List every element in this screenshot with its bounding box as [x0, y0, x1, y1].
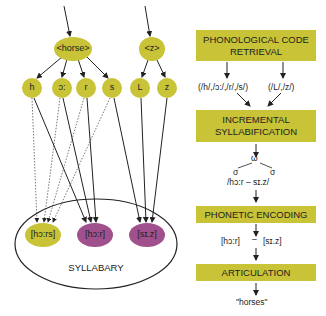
word-node-z: <z> — [139, 37, 165, 61]
input-arrow — [64, 6, 70, 36]
output-word: "horses" — [236, 297, 268, 307]
svg-text:[sɪ.z]: [sɪ.z] — [137, 229, 157, 239]
word-node-horse: <horse> — [54, 37, 92, 61]
segment-node: r — [76, 78, 96, 98]
svg-text:ɔ:: ɔ: — [58, 82, 65, 92]
omega-symbol: ω — [251, 153, 258, 163]
syllabified-form: /hɔ:r – sɪ.z/ — [227, 177, 269, 187]
svg-text:r: r — [85, 82, 88, 92]
stage-phonetic-encoding: PHONETIC ENCODING — [196, 206, 316, 223]
stage-incremental-syllabification: INCREMENTAL SYLLABIFICATION — [196, 110, 316, 142]
svg-text:[hɔ:rs]: [hɔ:rs] — [31, 229, 56, 239]
syllabary-label: SYLLABARY — [68, 262, 124, 273]
syllable-node-hors: [hɔ:rs] — [25, 223, 61, 247]
segment-node: ɔ: — [52, 78, 72, 98]
syllable-node-hor: [hɔ:r] — [77, 223, 113, 247]
segment-node: L — [130, 78, 150, 98]
svg-text:<horse>: <horse> — [56, 43, 89, 53]
syllable-node-siz: [sɪ.z] — [129, 223, 165, 247]
phonetic-form-1: [hɔ:r] — [221, 236, 240, 246]
sigma-symbol: σ — [233, 167, 238, 177]
input-arrow — [145, 6, 150, 36]
phonetic-form-2: [sɪ.z] — [263, 236, 282, 246]
svg-text:<z>: <z> — [144, 43, 159, 53]
stage-phonological-code-retrieval: PHONOLOGICAL CODE RETRIEVAL — [196, 30, 316, 61]
svg-text:z: z — [165, 82, 170, 92]
sigma-symbol: σ — [270, 167, 275, 177]
segment-node: s — [102, 78, 122, 98]
segment-node: z — [157, 78, 177, 98]
code-z: (/L/,/z/) — [268, 82, 294, 92]
svg-text:s: s — [110, 82, 115, 92]
code-horse: (/h/,/ɔ:/,/r/,/s/) — [198, 82, 248, 92]
phonetic-separator: – — [252, 234, 257, 244]
svg-text:[hɔ:r]: [hɔ:r] — [85, 229, 105, 239]
svg-text:h: h — [29, 82, 34, 92]
svg-text:L: L — [137, 82, 142, 92]
stage-articulation: ARTICULATION — [196, 264, 316, 281]
segment-node: h — [22, 78, 42, 98]
